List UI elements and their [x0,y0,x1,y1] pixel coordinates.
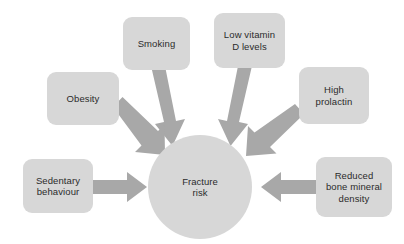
arrow-prolactin [246,104,304,156]
node-sedentary-behaviour-label: Sedentary behaviour [36,175,80,198]
node-reduced-bone-mineral-density-label: Reduced bone mineral density [326,170,382,205]
center-node-label: Fracture risk [182,176,217,199]
arrow-sedentary [90,172,147,202]
node-low-vitamin-d-levels[interactable]: Low vitamin D levels [214,13,285,68]
node-reduced-bone-mineral-density[interactable]: Reduced bone mineral density [316,157,392,217]
node-smoking[interactable]: Smoking [123,17,190,70]
node-high-prolactin[interactable]: High prolactin [299,67,369,124]
node-smoking-label: Smoking [138,38,176,50]
fracture-risk-diagram: Fracture risk Smoking Low vitamin D leve… [0,0,404,244]
node-sedentary-behaviour[interactable]: Sedentary behaviour [23,159,93,213]
arrow-lowvitd [218,66,252,146]
center-node-fracture-risk[interactable]: Fracture risk [148,135,252,239]
node-obesity-label: Obesity [67,93,100,105]
arrow-bmd [261,172,318,202]
node-low-vitamin-d-levels-label: Low vitamin D levels [224,29,275,52]
node-high-prolactin-label: High prolactin [316,84,353,107]
node-obesity[interactable]: Obesity [47,72,119,125]
